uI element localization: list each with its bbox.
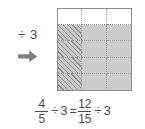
- grid-cell: [82, 41, 106, 57]
- left-fraction-denominator: 5: [39, 112, 46, 125]
- equation: 4 5 ÷ 3 = 12 15 ÷ 3: [0, 95, 145, 127]
- right-fraction: 12 15: [78, 98, 91, 125]
- right-fraction-numerator: 12: [78, 98, 91, 111]
- grid-cell: [107, 25, 131, 41]
- equals-symbol: =: [68, 104, 78, 118]
- left-fraction-numerator: 4: [39, 98, 46, 111]
- grid-cell: [58, 9, 82, 25]
- grid-cell: [107, 58, 131, 74]
- divide-symbol-2: ÷: [92, 104, 103, 118]
- grid-cell: [82, 74, 106, 90]
- divisor-1: 3: [61, 104, 68, 118]
- grid-cell: [82, 25, 106, 41]
- divisor-2: 3: [104, 104, 111, 118]
- grid-cell: [58, 41, 82, 57]
- divide-symbol-1: ÷: [49, 104, 60, 118]
- grid-cell: [82, 9, 106, 25]
- right-arrow-icon: [6, 49, 50, 64]
- operator-block: ÷ 3: [6, 27, 50, 64]
- grid-cell: [58, 58, 82, 74]
- fraction-division-figure: ÷ 3 4 5 ÷ 3: [0, 0, 145, 129]
- grid-cell: [107, 9, 131, 25]
- grid-cell: [107, 74, 131, 90]
- area-model-grid: [57, 8, 132, 91]
- grid-cell: [107, 41, 131, 57]
- right-fraction-denominator: 15: [78, 112, 91, 125]
- grid-cell: [82, 58, 106, 74]
- grid-cell: [58, 74, 82, 90]
- divide-by-three-label: ÷ 3: [6, 27, 50, 42]
- left-fraction: 4 5: [35, 98, 48, 125]
- grid-cell: [58, 25, 82, 41]
